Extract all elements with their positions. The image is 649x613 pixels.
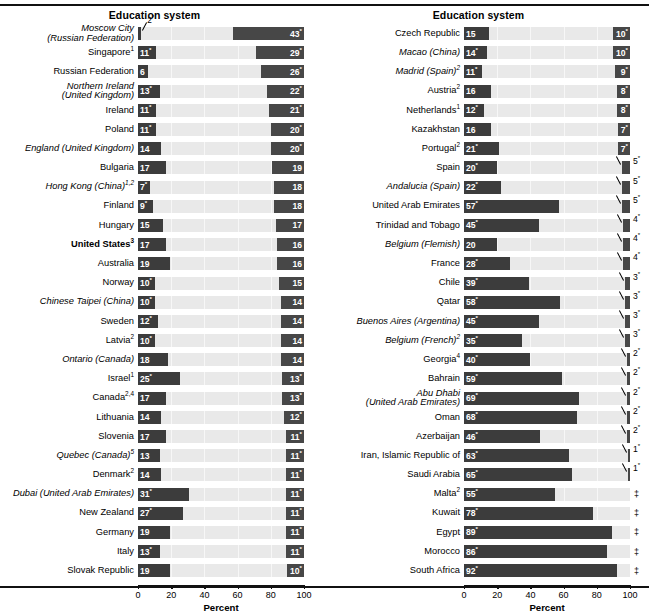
label-footnote-marker: 1 xyxy=(456,102,460,109)
label-footnote-marker: 2 xyxy=(456,64,460,71)
label-footnote-marker: 2 xyxy=(130,333,134,340)
gridline xyxy=(497,65,498,78)
leader-line xyxy=(616,176,621,184)
gridline xyxy=(597,257,598,270)
bar-segment-right xyxy=(627,353,630,366)
bar-track: 25*13* xyxy=(138,372,304,385)
bar-row: Malta255*‡ xyxy=(324,485,649,504)
bar-segment-right xyxy=(623,238,630,251)
row-label: Portugal2 xyxy=(324,144,464,154)
bar-track: 13*22* xyxy=(138,85,304,98)
gridline xyxy=(238,315,239,328)
gridline xyxy=(597,123,598,136)
bar-value-left: 55* xyxy=(466,489,478,499)
row-label: Morocco xyxy=(324,547,464,557)
bar-track: 45*4* xyxy=(464,219,630,232)
bar-segment-right xyxy=(625,296,630,309)
bar-track: 39*3* xyxy=(464,277,630,290)
gridline xyxy=(171,277,172,290)
bar-track: 1411* xyxy=(138,468,304,481)
bar-segment-left xyxy=(464,545,607,558)
bar-track: 167* xyxy=(464,123,630,136)
row-label: Azerbaijan xyxy=(324,432,464,442)
gridline xyxy=(204,277,205,290)
bar-segment-right xyxy=(628,468,630,481)
bar-segment-left xyxy=(464,411,577,424)
bar-row: Oman68*2* xyxy=(324,408,649,427)
bar-value-right: 4* xyxy=(633,214,640,224)
row-label: Denmark2 xyxy=(0,470,138,480)
bar-segment-right xyxy=(622,161,630,174)
row-label: Qatar xyxy=(324,297,464,307)
row-label: Canada2,4 xyxy=(0,393,138,403)
gridline xyxy=(497,238,498,251)
gridline xyxy=(204,545,205,558)
row-label: New Zealand xyxy=(0,508,138,518)
column-header-left: Education system xyxy=(0,9,309,21)
gridline xyxy=(597,392,598,405)
bar-segment-left xyxy=(464,200,559,213)
row-label: Hong Kong (China)1,2 xyxy=(0,182,138,192)
row-label: Abu Dhabi(United Arab Emirates) xyxy=(324,389,464,408)
bar-value-right: 11* xyxy=(290,470,302,480)
bar-value-right: 5* xyxy=(633,195,640,205)
gridline xyxy=(204,526,205,539)
bar-value-right: 8* xyxy=(621,86,628,96)
gridline xyxy=(238,334,239,347)
gridline xyxy=(271,468,272,481)
axis-tick xyxy=(304,585,305,589)
gridline xyxy=(238,238,239,251)
bar-value-right: 13* xyxy=(290,374,302,384)
leader-line xyxy=(621,425,626,433)
bar-row: Kazakhstan167* xyxy=(324,120,649,139)
gridline xyxy=(271,545,272,558)
bar-track: 89*‡ xyxy=(464,526,630,539)
gridline xyxy=(271,430,272,443)
bar-value-right: 19 xyxy=(292,163,302,173)
bar-track: 1713* xyxy=(138,392,304,405)
bar-value-left: 17 xyxy=(140,393,150,403)
bar-track: 1719 xyxy=(138,161,304,174)
axis-tick xyxy=(497,585,498,589)
gridline xyxy=(564,353,565,366)
bar-value-right: 14 xyxy=(292,316,302,326)
bar-value-right: 20* xyxy=(290,144,302,154)
gridline xyxy=(238,545,239,558)
gridline xyxy=(597,142,598,155)
bar-value-left: 65* xyxy=(466,470,478,480)
row-label: Malta2 xyxy=(324,489,464,499)
bar-value-right: 16 xyxy=(292,259,302,269)
bar-value-right: 2* xyxy=(633,425,640,435)
bar-track: 14*10* xyxy=(464,46,630,59)
bar-segment-right xyxy=(625,277,630,290)
gridline xyxy=(204,219,205,232)
gridline xyxy=(204,27,205,40)
row-label: Northern Ireland(United Kingdom) xyxy=(0,82,138,101)
gridline xyxy=(171,46,172,59)
row-label: Dubai (United Arab Emirates) xyxy=(0,489,138,499)
bar-value-right: 11* xyxy=(290,489,302,499)
gridline xyxy=(564,142,565,155)
bar-segment-right xyxy=(627,372,630,385)
bar-row: Andalucia (Spain)22*5* xyxy=(324,178,649,197)
gridline xyxy=(271,392,272,405)
axis-title: Percent xyxy=(138,602,304,613)
bar-value-right: 2* xyxy=(633,348,640,358)
bar-segment-right xyxy=(625,334,630,347)
axis-tick-label: 40 xyxy=(199,590,209,600)
bar-value-right: 8* xyxy=(621,105,628,115)
bar-row: Belgium (French)235*3* xyxy=(324,331,649,350)
gridline xyxy=(271,257,272,270)
bar-value-left: 78* xyxy=(466,508,478,518)
axis-tick-label: 0 xyxy=(135,590,140,600)
suppressed-marker: ‡ xyxy=(634,508,639,518)
gridline xyxy=(530,85,531,98)
bar-value-right: 17 xyxy=(292,220,302,230)
bar-segment-right xyxy=(622,181,630,194)
leader-line xyxy=(622,464,627,472)
bar-value-left: 14 xyxy=(140,144,150,154)
bar-value-right: 20* xyxy=(290,125,302,135)
gridline xyxy=(171,564,172,577)
bar-row: Slovak Republic1910* xyxy=(0,561,325,580)
bar-track: 11*9* xyxy=(464,65,630,78)
